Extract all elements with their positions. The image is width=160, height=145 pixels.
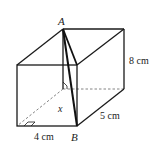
width-label: 4 cm <box>34 131 54 142</box>
unknown-x-label: x <box>57 103 63 114</box>
front-face <box>17 65 77 126</box>
cuboid-diagram: A B 8 cm 5 cm 4 cm x <box>0 0 160 145</box>
height-label: 8 cm <box>129 55 149 66</box>
depth-label: 5 cm <box>100 110 120 121</box>
diagonal-ab <box>63 29 77 126</box>
vertex-b-label: B <box>71 131 78 143</box>
hidden-left-bottom-edge <box>17 89 63 126</box>
top-right-edge <box>77 29 124 65</box>
top-left-edge <box>17 29 63 65</box>
vertex-a-label: A <box>57 15 65 27</box>
